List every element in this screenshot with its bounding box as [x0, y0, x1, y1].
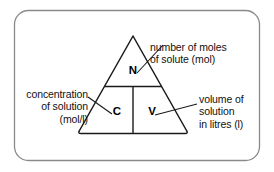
diagram-canvas [0, 0, 274, 172]
label-volume: volume of solution in litres (l) [199, 93, 244, 130]
label-volume-line3: in litres (l) [199, 118, 244, 130]
label-concentration-line1: concentration [26, 88, 88, 100]
label-concentration-line3: (mol/l) [26, 113, 88, 125]
formula-triangle-diagram: N C V number of moles of solute (mol) co… [0, 0, 274, 172]
triangle-variable-v: V [144, 105, 160, 117]
label-number-of-moles-line2: of solute (mol) [150, 53, 227, 65]
label-volume-line2: solution [199, 105, 244, 117]
label-number-of-moles-line1: number of moles [150, 41, 227, 53]
label-concentration-line2: of solution [26, 100, 88, 112]
label-concentration: concentration of solution (mol/l) [26, 88, 88, 125]
label-volume-line1: volume of [199, 93, 244, 105]
label-number-of-moles: number of moles of solute (mol) [150, 41, 227, 66]
triangle-variable-n: N [125, 64, 141, 76]
diagram-border [15, 11, 260, 161]
triangle-variable-c: C [109, 105, 125, 117]
